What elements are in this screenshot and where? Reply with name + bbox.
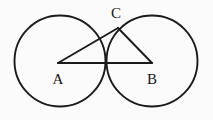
vertex-label-a: A <box>53 71 64 87</box>
geometry-figure: A B C <box>0 0 213 120</box>
segment-cb <box>118 28 152 63</box>
vertex-label-c: C <box>111 5 121 21</box>
vertex-label-b: B <box>147 71 157 87</box>
figure-canvas: A B C <box>0 0 213 120</box>
